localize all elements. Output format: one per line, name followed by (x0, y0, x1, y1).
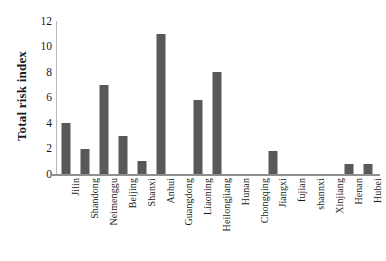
x-tick-label: Anhui (165, 178, 176, 258)
x-tick-label: Liaoning (202, 178, 213, 258)
x-tick-label: Beijing (127, 178, 138, 258)
x-axis-line (50, 174, 380, 176)
y-tick-label: 6 (26, 92, 52, 104)
bar-slot (170, 21, 189, 174)
bar (269, 151, 278, 174)
bar (100, 85, 109, 174)
bar (62, 123, 71, 174)
x-tick-label: fujian (296, 178, 307, 258)
x-tick-label: Jilin (70, 178, 81, 258)
x-tick-label: Neimenggu (108, 178, 119, 258)
bar-slot (321, 21, 340, 174)
bar-slot (132, 21, 151, 174)
bar (212, 72, 221, 174)
bar-slot (95, 21, 114, 174)
bar (194, 100, 203, 174)
x-axis-tick-labels: JilinShandongNeimengguBeijingShanxiAnhui… (57, 178, 377, 258)
bar-slot (226, 21, 245, 174)
x-tick-label: shannxi (315, 178, 326, 258)
x-tick-label: Hubei (372, 178, 383, 258)
y-tick-label: 12 (26, 16, 52, 28)
bar-slot (302, 21, 321, 174)
x-tick-label: Chongqing (259, 178, 270, 258)
y-tick-label: 8 (26, 67, 52, 79)
bar (137, 161, 146, 174)
bar-slot (76, 21, 95, 174)
x-tick-label: Shanxi (146, 178, 157, 258)
bar-slot (208, 21, 227, 174)
bar-slot (113, 21, 132, 174)
y-tick-label: 0 (26, 169, 52, 181)
bar-slot (264, 21, 283, 174)
bar-slot (283, 21, 302, 174)
bar-slot (57, 21, 76, 174)
y-tick-label: 2 (26, 143, 52, 155)
bar-series (57, 21, 377, 174)
bar-slot (339, 21, 358, 174)
x-tick-label: Shandong (89, 178, 100, 258)
bar (363, 164, 372, 174)
x-tick-label: Hunan (240, 178, 251, 258)
x-tick-label: Jiangxi (277, 178, 288, 258)
bar (156, 34, 165, 174)
bar-slot (358, 21, 377, 174)
x-tick-label: Xinjiang (334, 178, 345, 258)
x-tick-label: Guangdong (183, 178, 194, 258)
bar-chart: Total risk index 121086420 JilinShandong… (0, 0, 386, 261)
y-axis-tick-labels: 121086420 (22, 21, 52, 174)
x-tick-label: Heilongjiang (221, 178, 232, 258)
bar (81, 149, 90, 175)
bar-slot (245, 21, 264, 174)
y-tick-label: 4 (26, 118, 52, 130)
y-tick-label: 10 (26, 41, 52, 53)
bar (344, 164, 353, 174)
bar-slot (189, 21, 208, 174)
bar-slot (151, 21, 170, 174)
x-tick-label: Henan (353, 178, 364, 258)
bar (118, 136, 127, 174)
